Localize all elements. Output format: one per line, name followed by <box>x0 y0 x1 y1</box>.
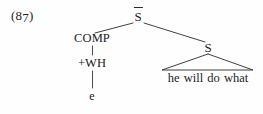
tree-node-s: S <box>204 41 211 54</box>
tree-node-wh-label: +WH <box>78 56 106 70</box>
triangle-s-to-terminal <box>162 54 253 70</box>
tree-node-s-label: S <box>204 40 211 55</box>
tree-node-comp: COMP <box>74 32 110 45</box>
tree-node-sbar-label: S <box>134 9 141 24</box>
tree-node-wh: +WH <box>78 57 106 70</box>
tree-node-sbar: S <box>134 10 141 23</box>
tree-branch-lines <box>0 0 263 114</box>
terminal-string: he will do what <box>168 72 248 85</box>
figure-canvas: (87) S COMP +WH e S he will do what <box>0 0 263 114</box>
overbar-icon <box>133 7 142 8</box>
tree-node-e-label: e <box>89 89 94 103</box>
branch-sbar-to-s <box>144 23 205 42</box>
tree-node-comp-label: COMP <box>74 31 110 45</box>
tree-node-empty-category: e <box>89 90 94 102</box>
